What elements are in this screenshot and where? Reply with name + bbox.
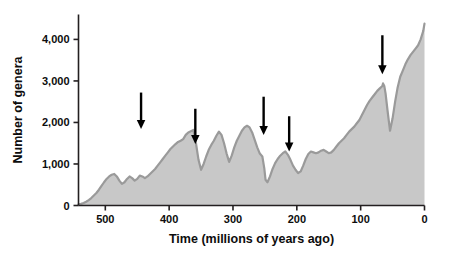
y-axis-tick-label: 4,000 xyxy=(42,33,70,45)
x-axis-tick-label: 300 xyxy=(224,213,242,225)
extinction-arrow xyxy=(259,97,268,135)
x-axis-tick-label: 100 xyxy=(351,213,369,225)
arrow-head xyxy=(137,120,146,129)
arrow-head xyxy=(378,65,387,74)
genera-diversity-chart-figure: 01,0002,0003,0004,0005004003002001000Tim… xyxy=(0,0,450,254)
extinction-arrow xyxy=(378,35,387,74)
x-axis-title: Time (millions of years ago) xyxy=(169,232,334,246)
y-axis-title: Number of genera xyxy=(11,55,25,163)
extinction-arrow xyxy=(285,116,294,151)
y-axis-tick-label: 3,000 xyxy=(42,75,70,87)
x-axis-tick-label: 0 xyxy=(421,213,427,225)
x-axis-tick-label: 500 xyxy=(96,213,114,225)
x-axis-tick-label: 400 xyxy=(160,213,178,225)
y-axis-tick-label: 0 xyxy=(63,200,69,212)
y-axis-tick-label: 2,000 xyxy=(42,116,70,128)
y-axis-tick-label: 1,000 xyxy=(42,158,70,170)
chart-canvas: 01,0002,0003,0004,0005004003002001000Tim… xyxy=(0,0,450,254)
arrow-head xyxy=(259,126,268,135)
x-axis-tick-label: 200 xyxy=(288,213,306,225)
arrow-head xyxy=(285,143,294,152)
extinction-arrow xyxy=(137,93,146,130)
